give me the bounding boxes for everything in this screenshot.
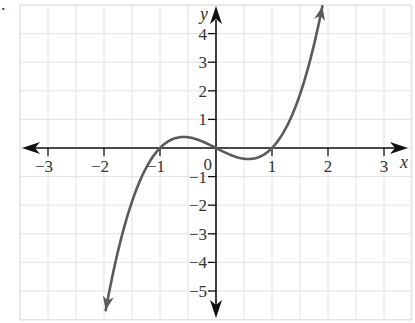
- y-tick-label: −2: [189, 196, 207, 215]
- y-tick-label: 4: [199, 25, 208, 44]
- cubic-function-graph: −3−2−11234321−1−2−3−4−50xy: [0, 0, 415, 323]
- origin-label: 0: [204, 155, 213, 174]
- x-tick-label: −2: [91, 157, 109, 176]
- y-tick-label: 2: [199, 82, 208, 101]
- y-tick-label: −5: [189, 282, 207, 301]
- y-tick-label: −4: [189, 253, 208, 272]
- x-tick-label: 2: [324, 157, 333, 176]
- x-tick-label: 3: [380, 157, 389, 176]
- tick-labels: −3−2−11234321−1−2−3−4−50xy: [35, 4, 408, 301]
- y-axis-label: y: [198, 4, 208, 24]
- function-curve: [106, 6, 323, 310]
- y-tick-label: −3: [189, 225, 207, 244]
- curve-end-arrows: [103, 6, 325, 310]
- axes: [22, 6, 408, 318]
- x-tick-label: −3: [35, 157, 53, 176]
- y-tick-label: 3: [199, 53, 208, 72]
- y-tick-label: 1: [199, 110, 208, 129]
- x-tick-label: 1: [268, 157, 277, 176]
- x-axis-label: x: [399, 152, 408, 172]
